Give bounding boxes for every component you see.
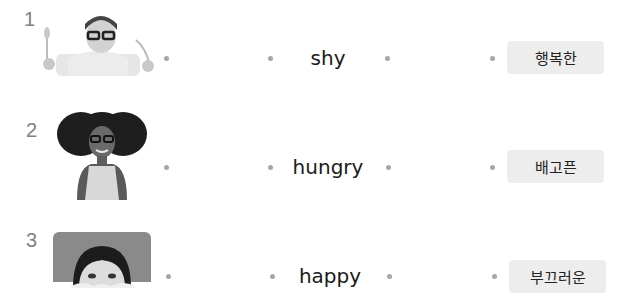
photo-girl-curly-hair — [55, 112, 147, 200]
photo-child-with-fork — [38, 8, 158, 78]
match-dot-photo-2[interactable] — [164, 165, 169, 170]
item-number-2: 2 — [26, 119, 37, 142]
match-dot-photo-3[interactable] — [166, 274, 171, 279]
match-dot-word-right-1[interactable] — [385, 56, 390, 61]
match-dot-korean-2[interactable] — [490, 165, 495, 170]
korean-word-3: 부끄러운 — [530, 266, 586, 287]
english-word-3: happy — [275, 264, 385, 288]
match-dot-korean-1[interactable] — [490, 56, 495, 61]
match-dot-photo-1[interactable] — [164, 56, 169, 61]
english-word-2: hungry — [273, 155, 383, 179]
english-word-1: shy — [273, 46, 383, 70]
item-number-3: 3 — [26, 229, 37, 252]
korean-answer-box-3: 부끄러운 — [509, 260, 606, 293]
korean-answer-box-1: 행복한 — [507, 41, 604, 74]
match-dot-korean-3[interactable] — [492, 274, 497, 279]
korean-word-2: 배고픈 — [535, 156, 577, 177]
match-dot-word-right-3[interactable] — [387, 274, 392, 279]
korean-answer-box-2: 배고픈 — [507, 150, 604, 183]
match-dot-word-right-2[interactable] — [386, 165, 391, 170]
korean-word-1: 행복한 — [535, 47, 577, 68]
photo-child-peeking — [53, 232, 151, 288]
item-number-1: 1 — [24, 8, 35, 31]
